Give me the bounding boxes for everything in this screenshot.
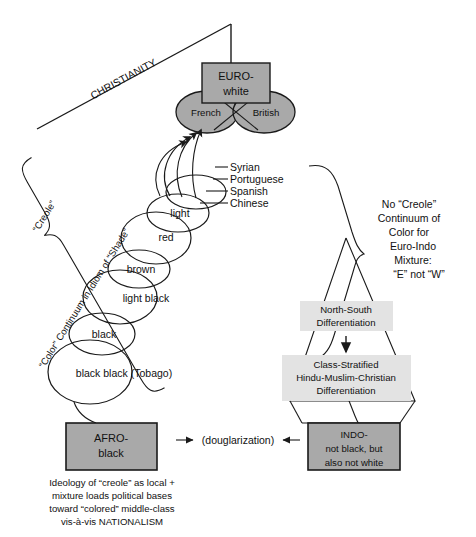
no-creole-note-line6: “E” not “W” xyxy=(393,268,445,280)
ellipse-red xyxy=(121,212,191,264)
diagram-canvas: CHRISTIANITY French British EURO- white xyxy=(0,0,476,537)
immigrant-label-chinese: Chinese xyxy=(230,197,269,209)
no-creole-note-line4: Euro-Indo xyxy=(390,240,436,252)
continuum-label-black-black: black black (Tobago) xyxy=(76,367,172,379)
north-south-line2: Differentiation xyxy=(316,317,375,328)
no-creole-note-line2: Continuum of xyxy=(378,212,441,224)
no-creole-note-line3: Color for xyxy=(389,226,430,238)
afro-box-line2: black xyxy=(98,447,124,459)
continuum-label-black: black xyxy=(92,328,117,340)
creole-brace xyxy=(7,157,164,401)
douglarization-label: (douglarization) xyxy=(202,434,274,446)
indo-triangle-skirt xyxy=(290,401,415,423)
class-box-line1: Class-Stratified xyxy=(313,359,378,370)
north-south-box: North-South Differentiation xyxy=(300,301,393,331)
euro-box-line1: EURO- xyxy=(218,70,254,82)
caption-line1: Ideology of “creole” as local + xyxy=(49,477,175,488)
north-south-line1: North-South xyxy=(320,304,372,315)
immigrant-label-portuguese: Portuguese xyxy=(230,173,284,185)
afro-connector xyxy=(74,402,96,423)
continuum-label-brown: brown xyxy=(127,263,156,275)
afro-box-line1: AFRO- xyxy=(94,432,129,444)
continuum-label-red: red xyxy=(158,231,173,243)
class-stratified-box: Class-Stratified Hindu-Muslim-Christian … xyxy=(282,355,411,401)
caption-line3: toward “colored” middle-class xyxy=(49,503,174,514)
class-box-line2: Hindu-Muslim-Christian xyxy=(296,372,396,383)
indo-box-line2: not black, but xyxy=(325,443,382,454)
caption-line2: mixture loads political bases xyxy=(52,490,172,501)
indo-box-line1: INDO- xyxy=(340,429,367,440)
afro-black-box: AFRO- black xyxy=(66,423,157,470)
euro-white-box: EURO- white xyxy=(202,63,270,103)
indo-box-line3: also not white xyxy=(325,457,384,468)
continuum-label-light: light xyxy=(170,207,189,219)
no-creole-note-line5: Mixture: xyxy=(394,254,431,266)
bottom-caption: Ideology of “creole” as local + mixture … xyxy=(49,477,175,527)
creole-continuum-diagram: CHRISTIANITY French British EURO- white xyxy=(0,0,476,537)
mixture-ellipse xyxy=(166,175,226,209)
immigrant-label-syrian: Syrian xyxy=(230,161,260,173)
continuum-label-light-black: light black xyxy=(123,292,170,304)
immigrant-arrow-group xyxy=(156,130,201,198)
caption-line4: vis-à-vis NATIONALISM xyxy=(61,516,163,527)
euro-box-line2: white xyxy=(222,85,249,97)
british-label: British xyxy=(253,107,280,118)
creole-brace-top-label: “Creole” xyxy=(30,199,58,234)
christianity-label: CHRISTIANITY xyxy=(88,56,158,101)
indo-black-box: INDO- not black, but also not white xyxy=(308,423,400,470)
no-creole-note: No “Creole” Continuum of Color for Euro-… xyxy=(378,198,445,280)
immigrant-label-spanish: Spanish xyxy=(230,185,268,197)
class-box-line3: Differentiation xyxy=(316,385,375,396)
french-label: French xyxy=(191,107,221,118)
no-creole-note-line1: No “Creole” xyxy=(382,198,437,210)
